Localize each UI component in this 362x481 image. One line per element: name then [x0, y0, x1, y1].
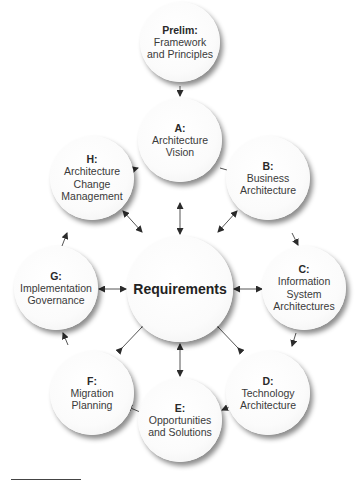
- node-prelim: Prelim: Framework and Principles: [140, 2, 220, 82]
- node-label: Opportunities and Solutions: [148, 414, 212, 439]
- arrow-g-to-h: [62, 233, 67, 246]
- node-code: C:: [298, 263, 309, 275]
- node-c-information-system-architectures: C: Information System Architectures: [262, 246, 346, 330]
- node-label: Architecture Vision: [152, 134, 208, 159]
- requirements-label: Requirements: [133, 283, 226, 296]
- node-b-business-architecture: B: Business Architecture: [226, 136, 310, 220]
- node-code: F:: [87, 375, 97, 387]
- node-code: H:: [86, 153, 97, 165]
- node-requirements: Requirements: [127, 236, 233, 342]
- arrow-c-to-d: [292, 333, 296, 346]
- node-label: Business Architecture: [240, 172, 296, 197]
- node-label: Architecture Change Management: [61, 165, 122, 203]
- arrow-req-d: [218, 327, 238, 348]
- arrow-b-to-c: [292, 233, 298, 245]
- node-label: Framework and Principles: [147, 36, 213, 61]
- node-code: B:: [262, 160, 273, 172]
- node-a-architecture-vision: A: Architecture Vision: [138, 98, 222, 182]
- node-h-architecture-change-management: H: Architecture Change Management: [50, 136, 134, 220]
- arrow-req-h: [123, 211, 142, 232]
- node-label: Information System Architectures: [273, 275, 334, 313]
- node-label: Migration Planning: [70, 387, 113, 412]
- node-code: D:: [262, 375, 273, 387]
- node-code: E:: [175, 402, 186, 414]
- arrow-f-to-g: [63, 333, 68, 345]
- node-d-technology-architecture: D: Technology Architecture: [226, 351, 310, 435]
- arrow-req-f: [122, 327, 142, 348]
- adm-cycle-diagram: Prelim: Framework and Principles A: Arch…: [0, 0, 362, 481]
- node-label: Implementation Governance: [20, 282, 92, 307]
- node-code: G:: [50, 270, 62, 282]
- node-label: Technology Architecture: [240, 387, 296, 412]
- footnote-divider: [11, 479, 81, 480]
- node-code: Prelim:: [162, 24, 198, 36]
- arrow-req-b: [218, 211, 237, 232]
- node-code: A:: [174, 122, 185, 134]
- node-e-opportunities-and-solutions: E: Opportunities and Solutions: [138, 378, 222, 462]
- node-f-migration-planning: F: Migration Planning: [50, 351, 134, 435]
- node-g-implementation-governance: G: Implementation Governance: [14, 246, 98, 330]
